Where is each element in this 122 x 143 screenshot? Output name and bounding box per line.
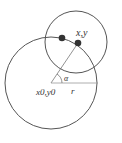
- radius-label: r: [71, 86, 75, 96]
- point-label: x,y: [75, 27, 88, 38]
- circle-intersection-diagram: x,y α x0,y0 r: [0, 0, 122, 143]
- angle-label: α: [64, 74, 69, 83]
- center-label: x0,y0: [35, 87, 56, 97]
- angle-arc: [57, 74, 62, 83]
- intersection-point-1: [59, 35, 66, 42]
- intersection-point-2: [75, 40, 82, 47]
